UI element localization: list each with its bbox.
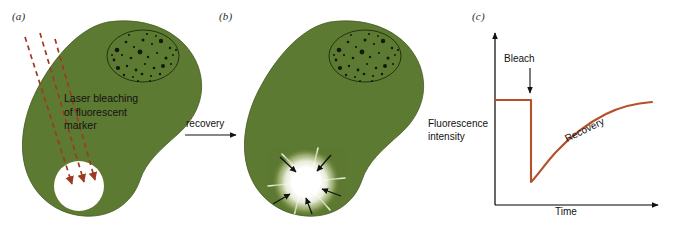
- panel-label-b: (b): [219, 10, 232, 22]
- x-axis-title: Time: [555, 206, 577, 219]
- frap-figure: (a) (b) (c) Laser bleaching of fluoresce…: [0, 0, 674, 235]
- bleach-spot-a: [54, 161, 104, 211]
- laser-bleaching-caption: Laser bleaching of fluorescent marker: [64, 92, 138, 133]
- panel-b-group: [244, 21, 423, 216]
- recovery-transition-label: recovery: [186, 118, 224, 129]
- y-axis-title: Fluorescence intensity: [428, 118, 488, 143]
- panel-label-a: (a): [12, 10, 25, 22]
- bleach-annotation-label: Bleach: [504, 53, 535, 64]
- panel-label-c: (c): [472, 10, 485, 22]
